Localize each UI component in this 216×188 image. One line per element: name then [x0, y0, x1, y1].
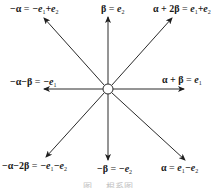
- origin-circle: [103, 84, 113, 94]
- label-neg-beta: −β = −e2: [97, 163, 132, 178]
- label-beta: β = e2: [101, 3, 124, 18]
- label-neg-alpha-minus-2beta: −α−2β = −e1−e2: [2, 160, 67, 175]
- arrow-neg-alpha-minus-2beta: [46, 93, 105, 158]
- figure-caption: 图 ... 根系图: [0, 180, 216, 188]
- label-alpha: α = e1−e2: [161, 162, 198, 177]
- label-alpha-plus-beta: α + β = e1: [162, 74, 202, 89]
- arrow-alpha: [112, 93, 186, 161]
- label-neg-alpha-minus-beta: −α−β = −e1: [10, 76, 56, 91]
- label-neg-alpha: −α = −e1+e2: [10, 3, 59, 18]
- label-alpha-plus-2beta: α + 2β = e1+e2: [153, 3, 211, 18]
